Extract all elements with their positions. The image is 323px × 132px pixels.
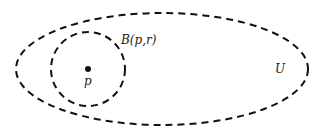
outer-set-label: U <box>275 63 285 75</box>
outer-set-ellipse <box>16 13 308 125</box>
diagram-canvas: B(p,r) p U <box>0 0 323 132</box>
point-dot <box>85 66 91 72</box>
point-label: p <box>84 75 92 87</box>
ball-label: B(p,r) <box>121 34 156 46</box>
